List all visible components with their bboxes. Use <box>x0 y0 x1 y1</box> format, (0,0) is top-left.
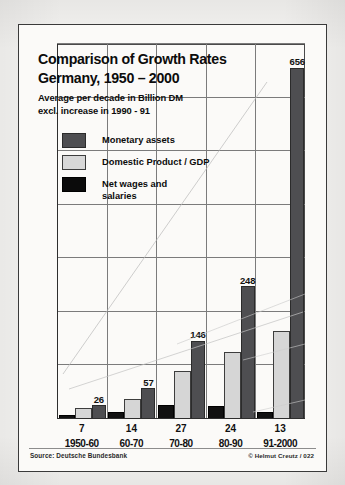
x-axis-wage-value: 24 <box>206 422 256 437</box>
x-axis-label-group: 2480-90 <box>206 422 256 451</box>
bar-value-label: 656 <box>290 56 305 67</box>
x-axis-wage-value: 7 <box>57 422 107 437</box>
chart-legend: Monetary assets Domestic Product / GDP N… <box>62 133 209 209</box>
bar-gdp <box>124 399 141 419</box>
chart-subtitle-line-2: excl. increase in 1990 - 91 <box>38 105 183 118</box>
gridline-horizontal <box>57 43 305 44</box>
chart-subtitle-line-1: Average per decade in Billion DM <box>38 92 183 105</box>
bar-gdp <box>174 371 191 419</box>
footer-divider <box>29 448 316 449</box>
bar-monetary: 656 <box>290 68 304 419</box>
x-axis-label-group: 1391-2000 <box>255 422 305 451</box>
legend-label-domestic-product: Domestic Product / GDP <box>102 155 209 168</box>
x-axis-label-group: 1460-70 <box>107 422 157 451</box>
x-axis-wage-value: 27 <box>156 422 206 437</box>
chart-title: Comparison of Growth Rates Germany, 1950… <box>38 50 226 88</box>
source-note: Source: Deutsche Bundesbank <box>30 452 127 459</box>
x-axis-wage-value: 14 <box>107 422 157 437</box>
legend-item-domestic-product: Domestic Product / GDP <box>62 155 209 170</box>
bar-value-label: 57 <box>143 377 153 388</box>
bar-value-label: 26 <box>94 394 104 405</box>
chart-figure: Comparison of Growth Rates Germany, 1950… <box>18 24 327 472</box>
bar-gdp <box>224 352 241 419</box>
legend-swatch-domestic-product <box>62 155 86 170</box>
bar-monetary: 248 <box>241 286 255 419</box>
chart-title-line-2: Germany, 1950 – 2000 <box>38 69 226 88</box>
plot-frame-top <box>57 44 305 45</box>
bar-monetary: 57 <box>141 388 155 419</box>
bar-group: 248 <box>206 286 256 419</box>
bar-group: 146 <box>156 341 206 419</box>
bar-value-label: 248 <box>240 275 255 286</box>
x-axis-wage-value: 13 <box>255 422 305 437</box>
legend-swatch-monetary-assets <box>62 133 86 148</box>
x-axis <box>57 418 305 419</box>
bar-gdp <box>273 331 290 419</box>
legend-item-net-wages: Net wages and salaries <box>62 177 209 202</box>
copyright-note: © Helmut Creutz / 022 <box>248 452 314 459</box>
legend-label-net-wages: Net wages and salaries <box>102 177 167 202</box>
legend-swatch-net-wages <box>62 177 86 192</box>
bar-monetary: 146 <box>191 341 205 419</box>
bar-value-label: 146 <box>190 329 205 340</box>
legend-label-monetary-assets: Monetary assets <box>102 133 175 146</box>
chart-subtitle: Average per decade in Billion DM excl. i… <box>38 92 183 117</box>
x-axis-label-group: 2770-80 <box>156 422 206 451</box>
legend-item-monetary-assets: Monetary assets <box>62 133 209 148</box>
bar-group: 656 <box>255 68 305 419</box>
x-axis-labels: 71950-601460-702770-802480-901391-2000 <box>57 422 305 451</box>
chart-title-line-1: Comparison of Growth Rates <box>38 50 226 69</box>
bar-group: 57 <box>107 388 157 419</box>
x-axis-label-group: 71950-60 <box>57 422 107 451</box>
